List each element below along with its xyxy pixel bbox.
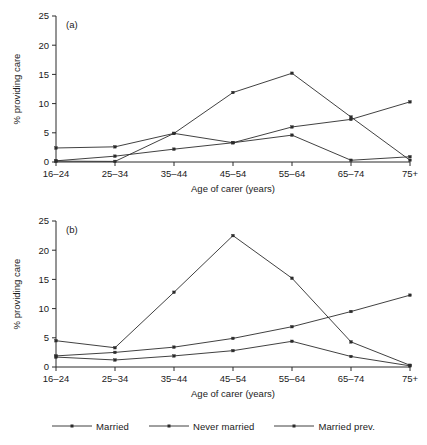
data-point-marker xyxy=(55,147,58,150)
legend-item-never-married[interactable]: Never married xyxy=(149,421,254,432)
data-point-marker xyxy=(114,359,117,362)
y-axis-tick-label: 5 xyxy=(44,127,49,138)
data-point-marker xyxy=(350,310,353,313)
legend-marker-icon xyxy=(149,421,189,431)
x-axis-tick-label: 65–74 xyxy=(338,168,364,179)
chart-legend: Married Never married Married prev. xyxy=(0,412,427,440)
x-axis-tick-label: 16–24 xyxy=(43,168,69,179)
legend-marker-icon xyxy=(52,421,92,431)
y-axis-tick-label: 15 xyxy=(38,274,49,285)
data-point-marker xyxy=(409,294,412,297)
data-point-marker xyxy=(114,160,117,163)
data-point-marker xyxy=(173,132,176,135)
data-point-marker xyxy=(232,141,235,144)
data-point-marker xyxy=(232,349,235,352)
data-point-marker xyxy=(114,146,117,149)
plot-area-a: 051015202516–2425–3435–4445–5455–6465–74… xyxy=(0,2,427,202)
data-point-marker xyxy=(409,101,412,104)
panel-label: (b) xyxy=(66,224,78,235)
y-axis-tick-label: 20 xyxy=(38,245,49,256)
data-point-marker xyxy=(173,291,176,294)
series-line-married xyxy=(56,102,410,161)
y-axis-tick-label: 25 xyxy=(38,215,49,226)
y-axis-tick-label: 10 xyxy=(38,303,49,314)
chart-panel-a: 051015202516–2425–3435–4445–5455–6465–74… xyxy=(0,2,427,202)
legend-label-married-prev: Married prev. xyxy=(318,421,375,432)
x-axis-tick-label: 55–64 xyxy=(279,373,305,384)
legend-label-married: Married xyxy=(96,421,129,432)
y-axis-tick-label: 15 xyxy=(38,69,49,80)
x-axis-tick-label: 25–34 xyxy=(102,168,128,179)
legend-item-married[interactable]: Married xyxy=(52,421,129,432)
x-axis-tick-label: 16–24 xyxy=(43,373,69,384)
y-axis-tick-label: 10 xyxy=(38,98,49,109)
y-axis-tick-label: 0 xyxy=(44,156,49,167)
data-point-marker xyxy=(114,351,117,354)
x-axis-title: Age of carer (years) xyxy=(191,183,275,194)
data-point-marker xyxy=(409,364,412,367)
data-point-marker xyxy=(55,160,58,163)
x-axis-tick-label: 55–64 xyxy=(279,168,305,179)
x-axis-tick-label: 75+ xyxy=(402,168,419,179)
data-point-marker xyxy=(173,355,176,358)
x-axis-tick-label: 75+ xyxy=(402,373,419,384)
y-axis-tick-label: 0 xyxy=(44,361,49,372)
data-point-marker xyxy=(232,337,235,340)
chart-panel-b: 051015202516–2425–3435–4445–5455–6465–74… xyxy=(0,207,427,407)
x-axis-tick-label: 35–44 xyxy=(161,168,187,179)
data-point-marker xyxy=(55,339,58,342)
legend-label-never-married: Never married xyxy=(193,421,254,432)
x-axis-tick-label: 45–54 xyxy=(220,373,246,384)
data-point-marker xyxy=(350,355,353,358)
data-point-marker xyxy=(291,126,294,129)
x-axis-tick-label: 45–54 xyxy=(220,168,246,179)
data-point-marker xyxy=(55,355,58,358)
plot-area-b: 051015202516–2425–3435–4445–5455–6465–74… xyxy=(0,207,427,407)
data-point-marker xyxy=(409,159,412,162)
data-point-marker xyxy=(232,234,235,237)
x-axis-tick-label: 35–44 xyxy=(161,373,187,384)
data-point-marker xyxy=(173,346,176,349)
y-axis-tick-label: 25 xyxy=(38,10,49,21)
panel-label: (a) xyxy=(66,19,78,30)
y-axis-tick-label: 5 xyxy=(44,332,49,343)
data-point-marker xyxy=(291,134,294,137)
data-point-marker xyxy=(350,341,353,344)
data-point-marker xyxy=(409,155,412,158)
series-line-married xyxy=(56,341,410,366)
x-axis-tick-label: 65–74 xyxy=(338,373,364,384)
data-point-marker xyxy=(350,159,353,162)
y-axis-title: % providing care xyxy=(11,259,22,330)
legend-marker-icon xyxy=(274,421,314,431)
x-axis-title: Age of carer (years) xyxy=(191,388,275,399)
data-point-marker xyxy=(114,155,117,158)
legend-item-married-prev[interactable]: Married prev. xyxy=(274,421,375,432)
y-axis-tick-label: 20 xyxy=(38,40,49,51)
data-point-marker xyxy=(350,116,353,119)
x-axis-tick-label: 25–34 xyxy=(102,373,128,384)
data-point-marker xyxy=(114,346,117,349)
figure-container: 051015202516–2425–3435–4445–5455–6465–74… xyxy=(0,0,427,445)
data-point-marker xyxy=(173,148,176,151)
series-line-married-prev xyxy=(56,236,410,366)
data-point-marker xyxy=(291,72,294,75)
data-point-marker xyxy=(291,340,294,343)
data-point-marker xyxy=(291,325,294,328)
data-point-marker xyxy=(291,277,294,280)
data-point-marker xyxy=(232,91,235,94)
y-axis-title: % providing care xyxy=(11,54,22,125)
